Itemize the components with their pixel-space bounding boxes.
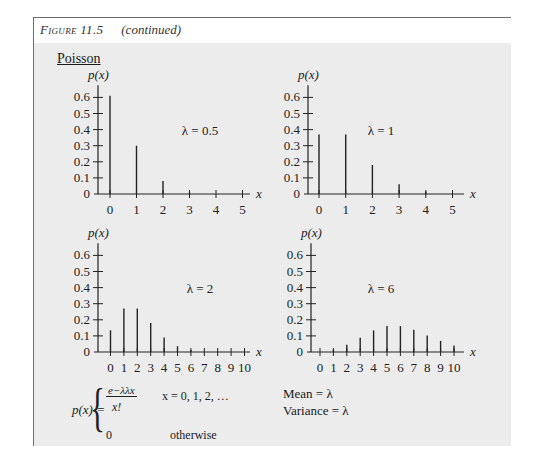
stat-mean: Mean = λ <box>283 386 333 402</box>
x-tick-label: 8 <box>424 360 431 375</box>
y-tick-label: 0.1 <box>284 170 300 185</box>
x-tick-label: 2 <box>160 202 167 217</box>
x-tick-label: 9 <box>437 360 444 375</box>
formula-case2-value: 0 <box>106 428 112 443</box>
formula-numerator: e−λλx <box>106 384 137 397</box>
x-tick-label: 1 <box>330 360 337 375</box>
formula-denominator: x! <box>112 400 121 415</box>
x-tick-label: 4 <box>370 360 377 375</box>
x-tick-label: 2 <box>369 202 376 217</box>
x-tick-label: 3 <box>396 202 403 217</box>
y-tick-label: 0.3 <box>284 138 300 153</box>
x-tick-label: 0 <box>107 202 114 217</box>
x-tick-label: 7 <box>411 360 418 375</box>
y-tick-label: 0.5 <box>74 106 90 121</box>
y-tick-label: 0.1 <box>74 328 90 343</box>
x-tick-label: 4 <box>161 360 168 375</box>
y-tick-label: 0 <box>84 186 91 201</box>
x-tick-label: 9 <box>228 360 235 375</box>
formula-condition-2: otherwise <box>170 428 217 443</box>
x-tick-label: 10 <box>448 360 461 375</box>
y-tick-label: 0.5 <box>74 264 90 279</box>
x-tick-label: 0 <box>317 360 324 375</box>
y-tick-label: 0.2 <box>284 154 300 169</box>
y-tick-label: 0 <box>297 344 304 359</box>
x-axis-label: x <box>469 186 476 201</box>
x-tick-label: 3 <box>186 202 193 217</box>
x-tick-label: 0 <box>107 360 114 375</box>
y-axis-label: p(x) <box>300 225 322 240</box>
x-axis-label: x <box>255 186 262 201</box>
y-axis-label: p(x) <box>297 67 319 82</box>
y-tick-label: 0.4 <box>287 280 304 295</box>
x-tick-label: 0 <box>316 202 323 217</box>
x-tick-label: 4 <box>423 202 430 217</box>
x-tick-label: 1 <box>133 202 140 217</box>
y-axis-label: p(x) <box>87 67 109 82</box>
x-tick-label: 6 <box>188 360 195 375</box>
y-tick-label: 0.2 <box>74 154 90 169</box>
x-tick-label: 8 <box>214 360 221 375</box>
x-tick-label: 4 <box>213 202 220 217</box>
x-tick-label: 1 <box>121 360 128 375</box>
y-tick-label: 0.2 <box>287 312 303 327</box>
y-tick-label: 0.3 <box>287 296 303 311</box>
stat-variance: Variance = λ <box>283 403 349 419</box>
y-axis-label: p(x) <box>87 225 109 240</box>
x-axis-label: x <box>255 344 262 359</box>
chart-title: λ = 1 <box>368 123 395 138</box>
y-tick-label: 0.3 <box>74 138 90 153</box>
y-tick-label: 0 <box>84 344 91 359</box>
x-axis-label: x <box>469 344 476 359</box>
y-tick-label: 0.4 <box>74 122 91 137</box>
y-tick-label: 0.5 <box>284 106 300 121</box>
x-tick-label: 5 <box>384 360 391 375</box>
chart-title: λ = 2 <box>187 281 214 296</box>
x-tick-label: 5 <box>239 202 246 217</box>
formula-brace: { <box>90 382 105 434</box>
formula-condition-1: x = 0, 1, 2, … <box>162 389 229 404</box>
y-tick-label: 0.1 <box>287 328 303 343</box>
y-tick-label: 0.3 <box>74 296 90 311</box>
y-tick-label: 0 <box>294 186 301 201</box>
y-tick-label: 0.6 <box>74 89 91 104</box>
y-tick-label: 0.6 <box>74 247 91 262</box>
x-tick-label: 10 <box>238 360 251 375</box>
chart-title: λ = 0.5 <box>182 123 218 138</box>
x-tick-label: 6 <box>397 360 404 375</box>
chart-title: λ = 6 <box>368 281 395 296</box>
y-tick-label: 0.4 <box>284 122 301 137</box>
y-tick-label: 0.4 <box>74 280 91 295</box>
x-tick-label: 7 <box>201 360 208 375</box>
x-tick-label: 5 <box>449 202 456 217</box>
y-tick-label: 0.6 <box>284 89 301 104</box>
y-tick-label: 0.5 <box>287 264 303 279</box>
y-tick-label: 0.1 <box>74 170 90 185</box>
x-tick-label: 2 <box>344 360 351 375</box>
x-tick-label: 3 <box>147 360 154 375</box>
x-tick-label: 3 <box>357 360 364 375</box>
x-tick-label: 5 <box>174 360 181 375</box>
x-tick-label: 1 <box>342 202 349 217</box>
y-tick-label: 0.2 <box>74 312 90 327</box>
x-tick-label: 2 <box>134 360 141 375</box>
y-tick-label: 0.6 <box>287 247 304 262</box>
